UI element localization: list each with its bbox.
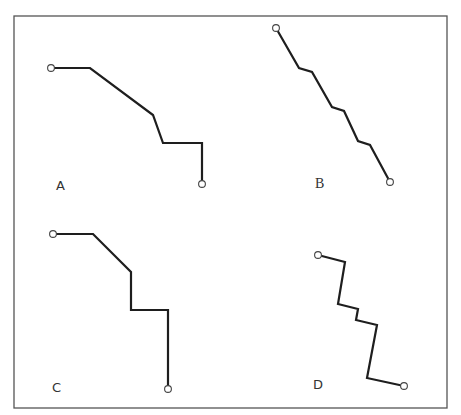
start-point-icon: [48, 65, 55, 72]
figure-frame: [14, 16, 447, 408]
end-point-icon: [199, 181, 206, 188]
end-point-icon: [387, 179, 394, 186]
start-point-icon: [273, 25, 280, 32]
path-line-d: [318, 255, 404, 386]
panel-d: D: [313, 252, 407, 392]
start-point-icon: [315, 252, 322, 259]
path-line-a: [51, 68, 202, 184]
path-diagram: ABCD: [0, 0, 461, 415]
start-point-icon: [50, 231, 57, 238]
path-line-c: [53, 234, 168, 389]
end-point-icon: [165, 386, 172, 393]
panel-b: B: [273, 25, 394, 191]
panel-label: C: [52, 380, 61, 395]
panel-label: B: [315, 176, 324, 191]
path-line-b: [276, 28, 390, 182]
panels-group: ABCD: [48, 25, 408, 395]
panel-c: C: [50, 231, 172, 395]
panel-label: D: [313, 377, 323, 392]
panel-a: A: [48, 65, 206, 193]
end-point-icon: [401, 383, 408, 390]
panel-label: A: [56, 178, 65, 193]
